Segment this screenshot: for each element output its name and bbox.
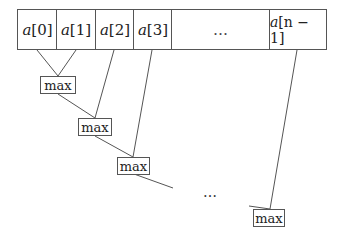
chain-ellipsis: … [203, 184, 217, 200]
array-cell-1: a[1] [56, 9, 95, 50]
max-label: max [255, 211, 282, 226]
max-label: max [81, 120, 108, 135]
cell-label: a[2] [100, 21, 130, 39]
max-label: max [120, 159, 147, 174]
cell-label: a[3] [138, 21, 168, 39]
max-node-last: max [253, 209, 285, 227]
cell-label: a[0] [22, 21, 52, 39]
cell-label: … [213, 21, 228, 39]
array-cell-0: a[0] [17, 9, 57, 50]
max-node-2: max [78, 118, 112, 136]
max-node-1: max [40, 76, 76, 94]
edge-a1-max1 [58, 50, 76, 76]
edge-an1-maxlast [270, 50, 297, 209]
array-cell-3: a[3] [133, 9, 172, 50]
max-label: max [44, 78, 71, 93]
edge-max1-max2 [58, 94, 95, 118]
max-node-3: max [117, 157, 150, 175]
cell-label: a[n − 1] [270, 14, 326, 46]
array-cell-2: a[2] [95, 9, 134, 50]
edge-max3-out [134, 174, 173, 188]
array-cell-ellipsis: … [171, 9, 269, 50]
array-cell-last: a[n − 1] [269, 9, 327, 50]
edge-a0-max1 [37, 50, 58, 76]
edge-max2-max3 [95, 136, 133, 157]
max-reduction-diagram: a[0] a[1] a[2] a[3] … a[n − 1] max max m… [0, 0, 344, 242]
edge-a2-max2 [95, 50, 114, 118]
edge-a3-max3 [133, 50, 152, 157]
cell-label: a[1] [61, 21, 91, 39]
